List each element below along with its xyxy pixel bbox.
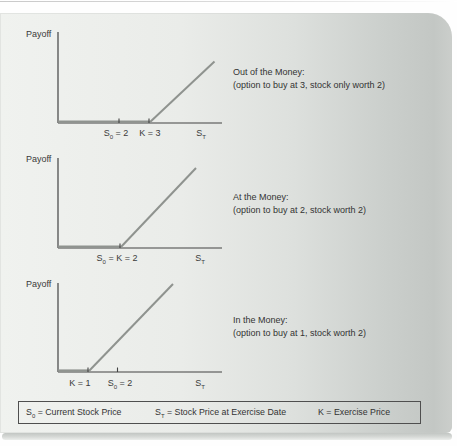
payoff-line-rising — [149, 62, 215, 124]
payoff-line-rising — [120, 168, 196, 248]
x-axis-end-label: ST — [166, 128, 236, 138]
annotation-detail: (option to buy at 1, stock worth 2) — [233, 327, 451, 340]
payoff-chart-at-the-money: Payoff S0 = K = 2 ST — [20, 150, 232, 272]
scan-artifact-line — [0, 1, 457, 2]
legend-item-k: K = Exercise Price — [318, 402, 390, 423]
annotation-in-the-money: In the Money: (option to buy at 1, stock… — [233, 314, 451, 339]
annotation-out-of-the-money: Out of the Money: (option to buy at 3, s… — [233, 66, 451, 91]
payoff-line-rising — [88, 284, 173, 372]
x-axis-end-label: ST — [165, 253, 235, 263]
figure: Payoff S0 = 2 K = 3 ST Payoff S0 = K = 2… — [0, 0, 457, 446]
annotation-detail: (option to buy at 3, stock only worth 2) — [233, 79, 451, 92]
payoff-chart-in-the-money: Payoff K = 1 S0 = 2 ST — [20, 275, 232, 397]
x-axis-end-label: ST — [165, 378, 235, 388]
legend-box: S0 = Current Stock Price ST = Stock Pric… — [18, 401, 421, 424]
legend-item-st: ST = Stock Price at Exercise Date — [155, 402, 286, 423]
annotation-detail: (option to buy at 2, stock worth 2) — [233, 204, 451, 217]
tick-label-s0-k: S0 = K = 2 — [82, 253, 152, 263]
tick-label-s0: S0 = 2 — [85, 378, 155, 388]
annotation-at-the-money: At the Money: (option to buy at 2, stock… — [233, 191, 451, 216]
panel-bottom-shadow — [2, 433, 452, 440]
y-axis-label: Payoff — [26, 29, 51, 39]
y-axis-label: Payoff — [26, 279, 51, 289]
annotation-title: Out of the Money: — [233, 66, 451, 79]
figure-panel: Payoff S0 = 2 K = 3 ST Payoff S0 = K = 2… — [0, 13, 452, 433]
payoff-chart-out-of-the-money: Payoff S0 = 2 K = 3 ST — [20, 25, 232, 147]
annotation-title: In the Money: — [233, 314, 451, 327]
annotation-title: At the Money: — [233, 191, 451, 204]
y-axis-label: Payoff — [26, 154, 51, 164]
legend-item-s0: S0 = Current Stock Price — [26, 402, 122, 423]
